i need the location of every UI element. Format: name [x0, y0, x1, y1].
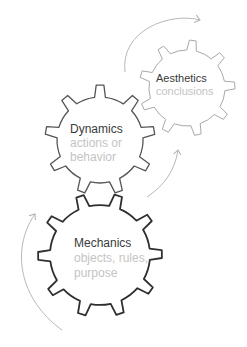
dynamics-description-line-1: actions or — [70, 136, 123, 150]
aesthetics-title: Aesthetics — [156, 72, 213, 85]
aesthetics-description: conclusions — [156, 85, 213, 98]
dynamics-description-line-2: behavior — [70, 150, 123, 164]
mda-diagram — [0, 0, 247, 347]
mechanics-description-line-2: purpose — [74, 266, 148, 281]
mechanics-title: Mechanics — [74, 236, 148, 251]
arrow-mechanics-to-aesthetics — [147, 150, 178, 197]
dynamics-title: Dynamics — [70, 122, 123, 136]
mechanics-description-line-1: objects, rules, — [74, 251, 148, 266]
aesthetics-label: Aesthetics conclusions — [156, 72, 213, 98]
dynamics-label: Dynamics actions or behavior — [70, 122, 123, 164]
mechanics-label: Mechanics objects, rules, purpose — [74, 236, 148, 281]
